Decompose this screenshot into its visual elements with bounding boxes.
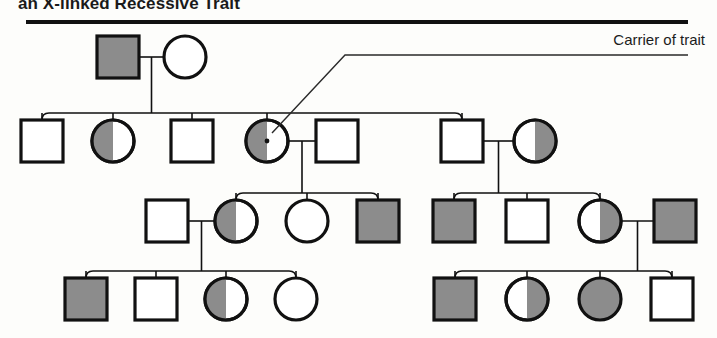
pedigree-symbol-ii-6 bbox=[441, 120, 483, 162]
pedigree-canvas bbox=[0, 0, 717, 338]
pedigree-symbol-iii-1 bbox=[146, 200, 188, 242]
pedigree-symbol-iii-3 bbox=[286, 200, 328, 242]
pedigree-symbol-iv-4 bbox=[275, 278, 317, 320]
pedigree-symbol-ii-5 bbox=[316, 120, 358, 162]
pedigree-symbol-iv-6 bbox=[506, 278, 548, 320]
pedigree-symbol-ii-1 bbox=[21, 120, 63, 162]
pedigree-symbol-i-1 bbox=[97, 36, 139, 78]
pedigree-symbol-iii-4 bbox=[357, 200, 399, 242]
pedigree-symbol-iii-8 bbox=[654, 200, 696, 242]
pedigree-symbol-iii-2 bbox=[215, 200, 257, 242]
pedigree-symbol-iii-7 bbox=[579, 200, 621, 242]
pedigree-connectors bbox=[42, 57, 672, 278]
pedigree-symbol-iii-6 bbox=[506, 200, 548, 242]
pedigree-symbol-ii-2 bbox=[92, 120, 134, 162]
pedigree-symbol-i-2 bbox=[164, 36, 206, 78]
pedigree-symbol-iv-1 bbox=[65, 278, 107, 320]
pedigree-symbol-iv-3 bbox=[205, 278, 247, 320]
pedigree-symbol-iv-8 bbox=[651, 278, 693, 320]
pedigree-symbol-iv-5 bbox=[434, 278, 476, 320]
pedigree-symbol-ii-3 bbox=[171, 120, 213, 162]
pedigree-symbol-ii-7 bbox=[514, 120, 556, 162]
pedigree-symbols bbox=[21, 36, 696, 320]
pedigree-symbol-iv-7 bbox=[579, 278, 621, 320]
pedigree-symbol-iv-2 bbox=[135, 278, 177, 320]
pedigree-figure: an X-linked Recessive Trait Carrier of t… bbox=[0, 0, 717, 338]
pedigree-symbol-iii-5 bbox=[433, 200, 475, 242]
